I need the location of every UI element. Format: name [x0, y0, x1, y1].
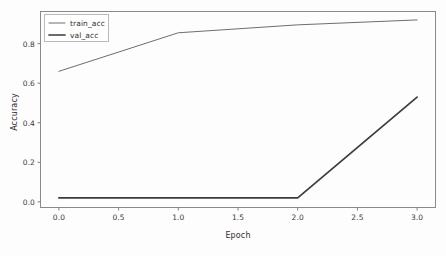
x-tick-label: 1.5: [232, 213, 244, 222]
x-axis-title: Epoch: [225, 231, 250, 240]
legend-label-val-acc: val_acc: [70, 31, 98, 40]
x-tick-label: 2.0: [292, 213, 304, 222]
y-tick-label: 0.6: [19, 79, 35, 88]
x-tick-label: 3.0: [411, 213, 423, 222]
series-line-val-acc: [59, 97, 417, 198]
data-series-group: [59, 20, 417, 198]
matplotlib-figure: 0.00.51.01.52.02.53.0 0.00.20.40.60.8 tr…: [0, 0, 446, 256]
series-line-train-acc: [59, 20, 417, 71]
x-tick-label: 0.0: [53, 213, 65, 222]
x-tick-label: 2.5: [351, 213, 363, 222]
x-tick-label: 0.5: [112, 213, 124, 222]
x-tick-label: 1.0: [172, 213, 184, 222]
y-tick-label: 0.0: [19, 197, 35, 206]
plot-canvas: [0, 0, 446, 256]
y-tick-label: 0.2: [19, 158, 35, 167]
y-tick-label: 0.4: [19, 118, 35, 127]
legend-label-train-acc: train_acc: [70, 19, 105, 28]
y-axis-title: Accuracy: [10, 93, 19, 131]
y-tick-label: 0.8: [19, 39, 35, 48]
